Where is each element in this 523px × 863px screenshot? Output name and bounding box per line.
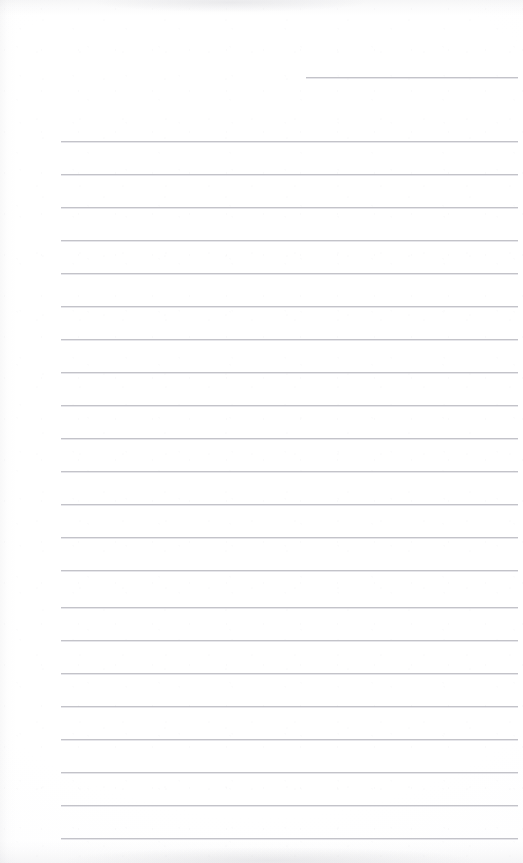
ruled-line bbox=[61, 141, 518, 142]
ruled-line bbox=[61, 405, 518, 406]
scan-smudge-top-blob bbox=[95, 0, 365, 12]
ruled-line bbox=[61, 673, 518, 674]
ruled-line bbox=[61, 339, 518, 340]
ruled-line bbox=[61, 273, 518, 274]
ruled-line bbox=[61, 706, 518, 707]
ruled-line bbox=[61, 207, 518, 208]
ruled-line bbox=[61, 640, 518, 641]
ruled-line bbox=[61, 739, 518, 740]
ruled-line bbox=[61, 504, 518, 505]
ruled-line bbox=[61, 174, 518, 175]
scan-smudge-bottom-blob bbox=[60, 847, 480, 863]
ruled-line bbox=[61, 438, 518, 439]
ruled-line bbox=[61, 838, 518, 839]
scan-shadow-left bbox=[0, 0, 16, 863]
ruled-line bbox=[61, 306, 518, 307]
ruled-line bbox=[61, 471, 518, 472]
ruled-line bbox=[306, 77, 518, 78]
scan-smudge-bottom bbox=[0, 841, 523, 863]
ruled-line bbox=[61, 240, 518, 241]
scanned-page bbox=[0, 0, 523, 863]
ruled-line bbox=[61, 772, 518, 773]
ruled-line bbox=[61, 372, 518, 373]
ruled-line bbox=[61, 570, 518, 571]
ruled-line bbox=[61, 607, 518, 608]
paper-grain-overlay bbox=[0, 0, 523, 863]
ruled-line bbox=[61, 805, 518, 806]
ruled-line bbox=[61, 537, 518, 538]
scan-smudge-top bbox=[0, 0, 523, 16]
